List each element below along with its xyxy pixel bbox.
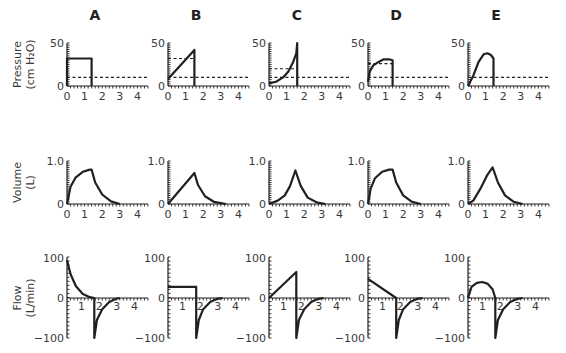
x-tick-label: 2 [400, 90, 407, 103]
x-tick-label: 1 [283, 90, 290, 103]
y-tick-label: 50 [252, 37, 266, 50]
x-tick-label: 4 [131, 300, 138, 313]
y-tick-label: 0 [259, 292, 266, 305]
x-tick-label: 4 [336, 90, 343, 103]
x-tick-label: 2 [400, 208, 407, 221]
ventilator-waveform-figure: ABCDE Pressure(cm H₂O)Volume(L)Flow(L/mi… [0, 0, 566, 353]
x-tick-label: 0 [465, 208, 472, 221]
panel-b-flow: −10001001234 [135, 252, 249, 345]
x-tick-label: 3 [417, 208, 424, 221]
panel-c-pressure: 05001234 [252, 37, 350, 103]
x-tick-label: 1 [382, 90, 389, 103]
x-tick-label: 4 [535, 90, 542, 103]
x-tick-label: 3 [414, 300, 421, 313]
x-tick-label: 2 [200, 90, 207, 103]
x-tick-label: 4 [333, 300, 340, 313]
panel-c-volume: 01.001234 [249, 155, 350, 221]
column-title-d: D [390, 7, 402, 23]
y-tick-label: 100 [344, 252, 365, 265]
y-tick-label: 100 [245, 252, 266, 265]
x-tick-label: 3 [116, 90, 123, 103]
column-title-c: C [292, 7, 302, 23]
x-tick-label: 1 [182, 208, 189, 221]
column-title-e: E [491, 7, 501, 23]
y-tick-label: 100 [43, 252, 64, 265]
x-tick-label: 1 [182, 90, 189, 103]
x-tick-label: 2 [200, 208, 207, 221]
x-tick-label: 4 [435, 90, 442, 103]
x-tick-label: 3 [514, 300, 521, 313]
x-tick-label: 0 [365, 90, 372, 103]
x-tick-label: 1 [280, 300, 287, 313]
y-tick-label: 50 [50, 37, 64, 50]
row-label-volume: (L) [24, 175, 37, 190]
x-tick-label: 0 [165, 90, 172, 103]
x-tick-label: 0 [266, 90, 273, 103]
x-tick-label: 4 [432, 300, 439, 313]
panels: 0500123405001234050012340500123405001234… [34, 37, 549, 345]
x-tick-label: 3 [217, 90, 224, 103]
waveform-curve [67, 59, 92, 87]
waveform-curve [168, 173, 226, 204]
y-tick-label: 1.0 [148, 155, 166, 168]
x-tick-label: 4 [336, 208, 343, 221]
panel-b-volume: 01.001234 [148, 155, 249, 221]
y-tick-label: 1.0 [249, 155, 267, 168]
x-tick-label: 3 [517, 90, 524, 103]
panel-d-flow: −10001001234 [335, 252, 449, 345]
x-tick-label: 1 [479, 300, 486, 313]
x-tick-label: 4 [235, 208, 242, 221]
x-tick-label: 3 [113, 300, 120, 313]
row-label-pressure: (cm H₂O) [24, 39, 37, 89]
panel-a-pressure: 05001234 [50, 37, 148, 103]
x-tick-label: 4 [134, 90, 141, 103]
y-tick-label: −100 [335, 332, 365, 345]
x-tick-label: 3 [318, 90, 325, 103]
y-tick-label: 0 [158, 292, 165, 305]
y-tick-label: −100 [135, 332, 165, 345]
y-tick-label: 100 [144, 252, 165, 265]
panel-e-pressure: 05001234 [451, 37, 549, 103]
x-tick-label: 2 [500, 90, 507, 103]
x-tick-label: 2 [301, 208, 308, 221]
panel-b-pressure: 05001234 [151, 37, 249, 103]
row-labels: Pressure(cm H₂O)Volume(L)Flow(L/min) [11, 39, 37, 317]
waveform-curve [269, 171, 325, 205]
waveform-curve [269, 43, 297, 86]
panel-c-flow: −10001001234 [236, 252, 350, 345]
y-tick-label: 0 [57, 292, 64, 305]
x-tick-label: 1 [81, 90, 88, 103]
panel-a-flow: −10001001234 [34, 252, 148, 345]
x-tick-label: 3 [417, 90, 424, 103]
y-tick-label: −100 [435, 332, 465, 345]
waveform-curve [67, 170, 120, 204]
y-tick-label: 50 [151, 37, 165, 50]
y-tick-label: 0 [358, 292, 365, 305]
x-tick-label: 2 [99, 208, 106, 221]
x-tick-label: 4 [232, 300, 239, 313]
x-tick-label: 0 [465, 90, 472, 103]
x-tick-label: 2 [500, 208, 507, 221]
x-tick-label: 4 [235, 90, 242, 103]
row-label-flow: (L/min) [24, 278, 37, 317]
x-tick-label: 3 [315, 300, 322, 313]
x-tick-label: 2 [301, 90, 308, 103]
x-tick-label: 1 [78, 300, 85, 313]
waveform-curve [67, 260, 120, 338]
x-tick-label: 1 [81, 208, 88, 221]
x-tick-label: 1 [482, 90, 489, 103]
x-tick-label: 1 [179, 300, 186, 313]
panel-e-volume: 01.001234 [448, 155, 549, 221]
x-tick-label: 1 [379, 300, 386, 313]
y-tick-label: −100 [34, 332, 64, 345]
y-tick-label: 1.0 [348, 155, 366, 168]
x-tick-label: 3 [517, 208, 524, 221]
y-tick-label: 50 [451, 37, 465, 50]
x-tick-label: 1 [283, 208, 290, 221]
x-tick-label: 0 [365, 208, 372, 221]
y-tick-label: 1.0 [448, 155, 466, 168]
x-tick-label: 3 [217, 208, 224, 221]
row-label-pressure: Pressure [11, 41, 24, 88]
x-tick-label: 0 [64, 90, 71, 103]
row-label-flow: Flow [11, 285, 24, 310]
